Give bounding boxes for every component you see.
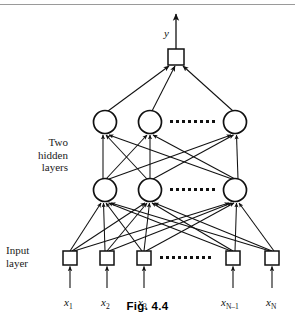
edge-i1-h1c	[74, 203, 229, 251]
ellipsis-input	[160, 256, 211, 259]
input-node-3	[137, 251, 151, 265]
edge-i5-h1a	[111, 203, 270, 251]
edge-i5-h1c	[239, 203, 274, 251]
input-node-5	[265, 251, 279, 265]
edge-i3-h1b	[144, 203, 150, 251]
edge-i4-h1c	[235, 203, 237, 251]
edge-h1c-h2c	[237, 135, 239, 179]
hidden1-node-3	[224, 179, 247, 202]
hidden2-node-2	[139, 111, 162, 134]
input-node-2	[100, 251, 114, 265]
hidden1-node-1	[94, 179, 117, 202]
edge-h2b-out	[152, 66, 175, 111]
input-node-4	[226, 251, 240, 265]
edge-i2-h1a	[104, 203, 106, 251]
input-layer-nodes	[63, 251, 279, 265]
input-layer-label: Input layer	[6, 244, 68, 269]
hidden1-node-2	[139, 179, 162, 202]
edge-h2a-out	[108, 66, 169, 111]
figure-container: y Two hidden layers Input layer x1 x2 x3…	[0, 0, 295, 318]
hidden-layers-label: Two hidden layers	[6, 136, 68, 174]
edges-hidden2-to-output	[108, 66, 233, 111]
input-feed-arrows	[70, 267, 272, 289]
figure-caption: Fig. 4.4	[0, 300, 295, 312]
edges-hidden1-to-hidden2	[103, 135, 238, 179]
edge-h2c-out	[183, 66, 233, 111]
ellipsis-hidden2	[170, 120, 215, 123]
output-node	[168, 49, 184, 65]
edges-input-to-hidden1	[70, 203, 274, 251]
output-variable-label: y	[164, 27, 169, 39]
hidden2-node-1	[94, 111, 117, 134]
hidden2-node-3	[224, 111, 247, 134]
ellipsis-hidden1	[170, 188, 215, 191]
